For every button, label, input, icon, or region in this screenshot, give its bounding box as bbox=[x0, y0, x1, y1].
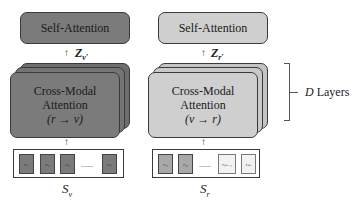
left-token-n: vᵢₙ bbox=[102, 154, 117, 174]
left-cross-modal-attention-block: Cross-Modal Attention (r → v) bbox=[10, 72, 120, 138]
right-self-attention-label: Self-Attention bbox=[179, 21, 248, 35]
right-sequence-label: Sr bbox=[200, 181, 210, 199]
left-token-2: vᵢ₂ bbox=[40, 154, 55, 174]
d-layers-text: Layers bbox=[314, 85, 350, 99]
right-token-ellipsis: ...... bbox=[199, 160, 211, 169]
left-z-subscript: v′ bbox=[82, 53, 88, 62]
right-z-subscript: r′ bbox=[218, 53, 223, 62]
right-sequence-subscript: r bbox=[207, 190, 210, 199]
right-token-m-minus-1: rⱼₘ₋₁ bbox=[218, 154, 236, 174]
layers-bracket-tick bbox=[290, 92, 298, 93]
right-token-m: rⱼₘ bbox=[241, 154, 256, 174]
right-token-2: rⱼ₂ bbox=[178, 154, 193, 174]
right-up-arrow-icon: ↑ bbox=[201, 47, 206, 58]
right-token-sequence: rⱼ₁ rⱼ₂ ...... rⱼₘ₋₁ rⱼₘ bbox=[152, 149, 260, 178]
left-token-3: vᵢ₃ bbox=[60, 154, 75, 174]
right-cross-modal-attention-block: Cross-Modal Attention (v → r) bbox=[148, 72, 258, 138]
d-layers-label: D Layers bbox=[305, 85, 349, 100]
left-self-attention-label: Self-Attention bbox=[41, 21, 110, 35]
left-self-attention-block: Self-Attention bbox=[20, 12, 130, 44]
left-cross-modal-line1: Cross-Modal bbox=[34, 84, 97, 98]
left-token-ellipsis: ...... bbox=[81, 160, 93, 169]
left-sequence-label: Sv bbox=[62, 181, 72, 199]
left-sequence-subscript: v bbox=[69, 190, 73, 199]
right-self-attention-block: Self-Attention bbox=[158, 12, 268, 44]
right-z-label: Zr′ bbox=[211, 46, 224, 62]
left-cross-modal-line2: Attention bbox=[42, 98, 87, 112]
right-cross-modal-line2: Attention bbox=[180, 98, 225, 112]
right-cross-modal-line1: Cross-Modal bbox=[172, 84, 235, 98]
right-token-1: rⱼ₁ bbox=[158, 154, 173, 174]
right-cross-modal-direction: (v → r) bbox=[185, 112, 221, 126]
left-token-sequence: vᵢ₁ vᵢ₂ vᵢ₃ ...... vᵢₙ bbox=[13, 149, 124, 178]
left-z-label: Zv′ bbox=[75, 46, 88, 62]
right-input-arrow-icon: ↑ bbox=[201, 136, 206, 147]
d-layers-symbol: D bbox=[305, 85, 314, 99]
left-token-1: vᵢ₁ bbox=[19, 154, 34, 174]
left-up-arrow-icon: ↑ bbox=[64, 47, 69, 58]
left-input-arrow-icon: ↑ bbox=[64, 136, 69, 147]
left-cross-modal-direction: (r → v) bbox=[47, 112, 83, 126]
